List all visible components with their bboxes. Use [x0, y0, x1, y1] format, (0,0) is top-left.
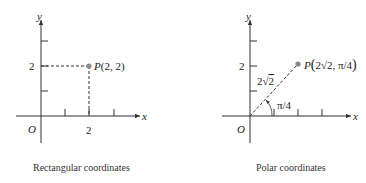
point-label: P(2, 2)	[93, 60, 125, 73]
polar-caption: Polar coordinates	[256, 162, 326, 173]
point-p	[295, 61, 300, 66]
radius-label: 2√2	[257, 75, 274, 87]
y-axis-label: y	[36, 10, 42, 22]
rectangular-panel: y x O 2 2 P(2, 2) Rectangular coordinate…	[16, 10, 147, 173]
point-p	[86, 63, 91, 68]
close-paren: )	[352, 57, 357, 73]
x-axis-label: x	[352, 110, 358, 122]
y-tick-label: 2	[29, 60, 35, 72]
rectangular-caption: Rectangular coordinates	[33, 162, 130, 173]
y-axis-label: y	[245, 10, 251, 22]
coordinate-diagram: y x O 2 2 P(2, 2) Rectangular coordinate…	[0, 0, 366, 183]
y-tick-label: 2	[239, 60, 245, 72]
x-axis-label: x	[141, 110, 147, 122]
point-label-theta: π/4	[338, 59, 353, 71]
angle-label: π/4	[277, 99, 292, 111]
polar-panel: y x O 2 2√2 π/4 P(2√2, π/4) Polar coordi…	[222, 10, 358, 173]
x-tick-label: 2	[86, 124, 92, 136]
point-label: P(2√2, π/4)	[303, 57, 357, 73]
angle-arc	[266, 100, 272, 116]
origin-label: O	[28, 123, 36, 135]
origin-label: O	[237, 123, 245, 135]
point-label-coords: (2, 2)	[101, 60, 125, 73]
radius-label-sqrt: 2	[269, 75, 275, 87]
